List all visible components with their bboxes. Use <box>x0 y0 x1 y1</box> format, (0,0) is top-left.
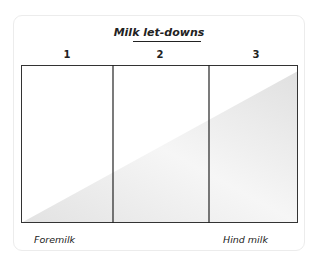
column-label-2: 2 <box>150 49 170 60</box>
milk-composition-graphic <box>21 65 298 223</box>
title-underline <box>133 41 201 42</box>
hindmilk-label: Hind milk <box>223 234 268 245</box>
column-label-3: 3 <box>246 49 266 60</box>
column-label-1: 1 <box>57 49 77 60</box>
foremilk-label: Foremilk <box>34 234 75 245</box>
let-down-diagram <box>21 65 298 223</box>
diagram-title: Milk let-downs <box>0 26 318 39</box>
